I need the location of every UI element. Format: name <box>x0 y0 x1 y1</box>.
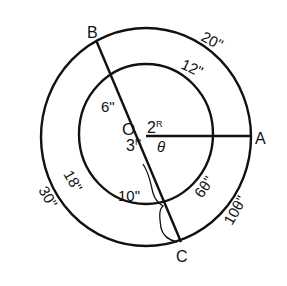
radius-label-10in: 10" <box>118 187 140 204</box>
concentric-circles-diagram: B A C O 20" 12" 18" 30" 6θ" 10θ" 6" 10" … <box>0 0 287 286</box>
angle-label-BOC: 3R <box>126 137 142 154</box>
angle-label-AOB: 2R <box>147 119 163 136</box>
point-label-B: B <box>87 24 98 41</box>
arc-label-outer-top: 20" <box>199 28 226 53</box>
angle-label-theta: θ <box>157 138 165 155</box>
inner-circle <box>79 64 213 204</box>
arc-label-outer-right: 10θ" <box>220 193 250 228</box>
arc-label-outer-left: 30" <box>35 183 61 211</box>
point-label-C: C <box>176 248 188 265</box>
arc-label-inner-right: 6θ" <box>191 173 218 201</box>
arc-label-inner-left: 18" <box>60 167 86 195</box>
radius-label-inner: 6" <box>101 98 115 115</box>
point-label-A: A <box>255 130 266 147</box>
